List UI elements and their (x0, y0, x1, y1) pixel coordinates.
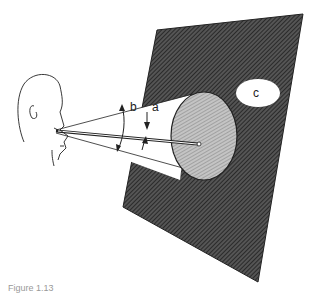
target-spot (197, 142, 201, 146)
figure-caption: Figure 1.13 (8, 283, 54, 293)
figure-diagram: b a c (0, 0, 314, 295)
observer-head (18, 74, 68, 166)
label-b: b (130, 100, 137, 114)
label-c: c (253, 86, 259, 100)
fixation-disc (171, 92, 237, 180)
label-a: a (152, 100, 159, 114)
